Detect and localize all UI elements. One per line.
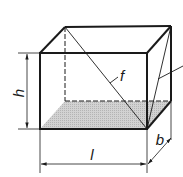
label-f: f	[120, 67, 126, 84]
label-l: l	[90, 146, 94, 163]
hidden-edges	[65, 27, 171, 101]
cuboid-diagram: h l b f	[0, 0, 183, 177]
label-b: b	[156, 131, 164, 148]
label-h: h	[10, 89, 27, 97]
f-leader	[110, 77, 118, 83]
